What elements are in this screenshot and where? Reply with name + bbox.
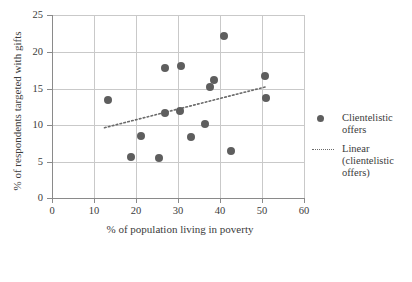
- data-point: [161, 109, 169, 117]
- x-tick-30: [178, 198, 179, 203]
- legend-entry-linear-trend[interactable]: Linear (clientelistic offers): [312, 143, 410, 179]
- y-tick-15: [47, 89, 52, 90]
- data-point: [127, 153, 135, 161]
- data-point: [176, 107, 184, 115]
- data-point: [137, 132, 145, 140]
- legend-label-clientelistic-offers: Clientelistic offers: [342, 112, 410, 136]
- data-point: [201, 120, 209, 128]
- x-tick-50: [262, 198, 263, 203]
- chart-legend: Clientelistic offers Linear (clientelist…: [312, 112, 410, 186]
- y-tick-20: [47, 52, 52, 53]
- data-point: [210, 76, 218, 84]
- x-tick-0: [52, 198, 53, 203]
- dotted-line-icon: [312, 149, 334, 150]
- x-tick-label-0: 0: [37, 206, 67, 217]
- gridline-x-50: [262, 15, 263, 199]
- data-point: [261, 72, 269, 80]
- x-tick-label-30: 30: [163, 206, 193, 217]
- caption-partial: [112, 272, 312, 280]
- scatter-chart-figure: 25 20 15 10 5 0 0 10 20 30 40 50 60 % of…: [0, 0, 412, 282]
- y-axis-line: [52, 15, 53, 199]
- x-tick-label-50: 50: [247, 206, 277, 217]
- data-point: [177, 62, 185, 70]
- legend-entry-clientelistic-offers[interactable]: Clientelistic offers: [312, 112, 410, 136]
- x-tick-60: [304, 198, 305, 203]
- data-point: [187, 133, 195, 141]
- legend-label-linear-trend: Linear (clientelistic offers): [342, 143, 410, 179]
- gridline-x-10: [94, 15, 95, 199]
- gridline-x-60: [304, 15, 305, 199]
- gridline-x-40: [220, 15, 221, 199]
- data-point: [227, 147, 235, 155]
- x-tick-40: [220, 198, 221, 203]
- data-point: [206, 83, 214, 91]
- y-tick-10: [47, 125, 52, 126]
- x-tick-label-10: 10: [79, 206, 109, 217]
- x-axis-title: % of population living in poverty: [30, 223, 330, 235]
- data-point: [262, 94, 270, 102]
- data-point: [161, 64, 169, 72]
- dot-marker-icon: [317, 115, 324, 122]
- x-tick-label-20: 20: [121, 206, 151, 217]
- gridline-x-20: [136, 15, 137, 199]
- x-tick-20: [136, 198, 137, 203]
- y-tick-25: [47, 15, 52, 16]
- data-point: [220, 32, 228, 40]
- y-axis-title: % of respondents targeted with gifts: [11, 11, 23, 211]
- x-tick-label-40: 40: [205, 206, 235, 217]
- y-tick-5: [47, 162, 52, 163]
- data-point: [104, 96, 112, 104]
- x-tick-10: [94, 198, 95, 203]
- x-tick-label-60: 60: [289, 206, 319, 217]
